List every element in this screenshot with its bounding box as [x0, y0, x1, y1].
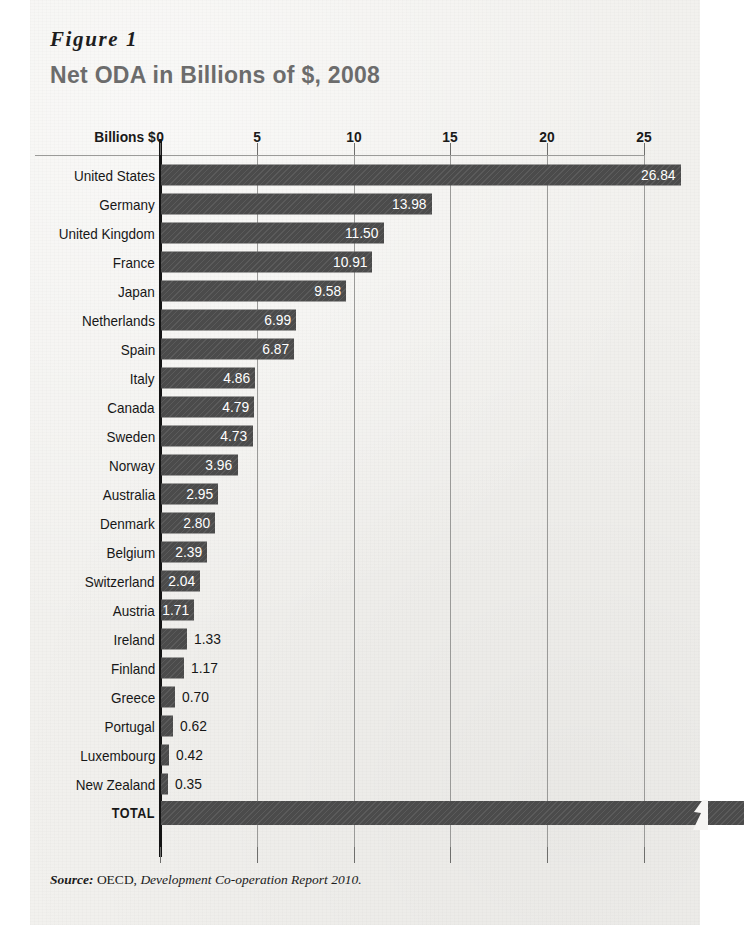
- bar-row[interactable]: Denmark2.80: [0, 508, 744, 537]
- bar-value-label: 3.96: [206, 456, 233, 473]
- x-axis-tick-mark-top: [257, 143, 258, 155]
- bar[interactable]: 9.58: [161, 280, 346, 301]
- bar-row-label: Norway: [109, 456, 155, 473]
- bar-row-label: Ireland: [114, 630, 155, 647]
- bar-row[interactable]: Greece0.70: [0, 682, 744, 711]
- bar-row[interactable]: Spain6.87: [0, 334, 744, 363]
- source-word: Source:: [50, 872, 94, 887]
- bar-value-label: 1.33: [194, 630, 221, 647]
- bar-row-label: United Kingdom: [59, 224, 155, 241]
- bar-value-label: 1.71: [162, 601, 189, 618]
- x-axis-tick-mark-top: [450, 143, 451, 155]
- source-note: Source: OECD, Development Co-operation R…: [50, 872, 362, 888]
- bar[interactable]: 2.39: [161, 541, 207, 562]
- bar[interactable]: 2.95: [161, 483, 218, 504]
- bar[interactable]: 0.70: [161, 686, 175, 707]
- bar-value-label: 2.80: [183, 514, 210, 531]
- bar[interactable]: 4.73: [161, 425, 253, 446]
- bar[interactable]: 2.80: [161, 512, 215, 533]
- bar-row[interactable]: Netherlands6.99: [0, 305, 744, 334]
- axis-break-icon: [689, 800, 715, 826]
- x-axis-tick-mark: [644, 847, 645, 863]
- x-axis-tick-mark: [354, 847, 355, 863]
- bar[interactable]: 1.33: [161, 628, 187, 649]
- bar-value-label: 0.70: [182, 688, 209, 705]
- bar[interactable]: 10.91: [161, 251, 372, 272]
- bar-row-label: Spain: [120, 340, 155, 357]
- bar[interactable]: 0.35: [161, 773, 168, 794]
- bar-row-label: Sweden: [106, 427, 155, 444]
- bar[interactable]: 1.17: [161, 657, 184, 678]
- bar-row[interactable]: Canada4.79: [0, 392, 744, 421]
- bar-row[interactable]: Sweden4.73: [0, 421, 744, 450]
- bar-row[interactable]: Norway3.96: [0, 450, 744, 479]
- bar-row-label: Greece: [111, 688, 155, 705]
- bar-value-label: 11.50: [345, 224, 379, 241]
- bar-row[interactable]: Japan9.58: [0, 276, 744, 305]
- x-axis-tick-mark-top: [644, 143, 645, 155]
- source-agency: OECD,: [97, 872, 137, 887]
- bar-row[interactable]: Austria1.71: [0, 595, 744, 624]
- bar-row[interactable]: France10.91: [0, 247, 744, 276]
- x-axis-tick-mark-top: [547, 143, 548, 155]
- x-axis-tick-mark-top: [160, 143, 161, 155]
- bar-row-label: Finland: [111, 659, 155, 676]
- bar-value-label: 4.79: [222, 398, 249, 415]
- bar[interactable]: 2.04: [161, 570, 200, 591]
- bar-row[interactable]: New Zealand0.35: [0, 769, 744, 798]
- bar-row-label: Japan: [118, 282, 155, 299]
- bar-row-label: Canada: [108, 398, 155, 415]
- bar[interactable]: 13.98: [161, 193, 432, 214]
- bar-row-label: Switzerland: [85, 572, 155, 589]
- bar-row[interactable]: United Kingdom11.50: [0, 218, 744, 247]
- bar[interactable]: 1.71: [161, 599, 194, 620]
- bar-value-label: 4.73: [221, 427, 248, 444]
- x-axis-tick-mark-top: [354, 143, 355, 155]
- bar-row-total[interactable]: TOTAL: [0, 798, 744, 827]
- x-axis-tick-mark: [450, 847, 451, 863]
- bar-value-label: 2.95: [186, 485, 213, 502]
- bar-row[interactable]: United States26.84: [0, 160, 744, 189]
- x-axis-header: Billions $ 0510152025: [0, 126, 744, 152]
- bar-value-label: 13.98: [392, 195, 427, 212]
- bar-value-label: 9.58: [315, 282, 342, 299]
- bar-row[interactable]: Switzerland2.04: [0, 566, 744, 595]
- bar[interactable]: 4.79: [161, 396, 254, 417]
- bar[interactable]: 11.50: [161, 222, 384, 243]
- bar-row-label: Luxembourg: [80, 746, 155, 763]
- bar-value-label: 0.62: [180, 717, 207, 734]
- bar-row-label: Belgium: [106, 543, 155, 560]
- bar-value-label: 2.39: [175, 543, 202, 560]
- x-axis-caption: Billions $: [95, 128, 156, 145]
- bar-row-label: Austria: [113, 601, 155, 618]
- bar[interactable]: 6.87: [161, 338, 294, 359]
- bar-row[interactable]: Germany13.98: [0, 189, 744, 218]
- bar-row[interactable]: Ireland1.33: [0, 624, 744, 653]
- bar-value-label: 6.99: [264, 311, 291, 328]
- bar-row-label: TOTAL: [112, 805, 155, 821]
- bar-row[interactable]: Italy4.86: [0, 363, 744, 392]
- bar-row-label: Australia: [102, 485, 155, 502]
- bar-value-label: 0.35: [175, 775, 202, 792]
- bar[interactable]: [161, 801, 744, 825]
- bar[interactable]: 0.62: [161, 715, 173, 736]
- bar-value-label: 6.87: [262, 340, 289, 357]
- bar-value-label: 26.84: [641, 166, 676, 183]
- bar[interactable]: 0.42: [161, 744, 169, 765]
- bar[interactable]: 6.99: [161, 309, 296, 330]
- bar-value-label: 10.91: [333, 253, 368, 270]
- bar-row[interactable]: Finland1.17: [0, 653, 744, 682]
- source-title: Development Co-operation Report 2010.: [140, 872, 361, 887]
- bar-value-label: 1.17: [191, 659, 218, 676]
- bar[interactable]: 3.96: [161, 454, 238, 475]
- bar-row[interactable]: Australia2.95: [0, 479, 744, 508]
- bar-value-label: 4.86: [223, 369, 250, 386]
- bar-row[interactable]: Luxembourg0.42: [0, 740, 744, 769]
- bar-row-label: Portugal: [105, 717, 155, 734]
- bar[interactable]: 4.86: [161, 367, 255, 388]
- bar-chart: Billions $ 0510152025 United States26.84…: [0, 0, 744, 925]
- bar-row-label: Italy: [130, 369, 155, 386]
- bar-row[interactable]: Belgium2.39: [0, 537, 744, 566]
- bar[interactable]: 26.84: [161, 164, 681, 185]
- bar-row[interactable]: Portugal0.62: [0, 711, 744, 740]
